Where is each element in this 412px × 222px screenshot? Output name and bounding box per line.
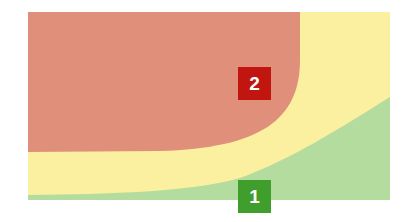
zone-1-badge: 1 — [238, 180, 271, 213]
zone-diagram — [0, 0, 412, 222]
zone-2-badge: 2 — [238, 67, 271, 100]
